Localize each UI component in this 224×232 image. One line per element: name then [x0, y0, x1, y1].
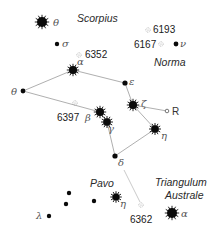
constellation-name: Triangulum	[155, 176, 207, 188]
star-label: ζ	[141, 98, 147, 109]
star-theta-sco: θ	[35, 15, 59, 29]
variable-star-label: R	[172, 106, 179, 117]
star-theta-ara: θ	[11, 86, 25, 97]
cluster-label: 6362	[130, 214, 153, 225]
star-icon	[67, 191, 71, 195]
star-label: θ	[11, 86, 17, 97]
star-icon	[92, 199, 96, 203]
constellation-name: Norma	[154, 56, 186, 68]
star-label: σ	[62, 38, 70, 49]
star-chart: 61936167635263976362 Rθσαεθβγζηδνηλα Sco…	[0, 0, 224, 232]
star-icon	[112, 153, 117, 158]
star-lambda-pav: λ	[35, 210, 51, 221]
star-icon	[47, 214, 51, 218]
cluster-label: 6167	[134, 39, 157, 50]
star-icon	[122, 80, 127, 85]
star-icon	[112, 193, 119, 200]
constellation-name: Pavo	[90, 177, 114, 189]
star-label: β	[84, 112, 91, 123]
star-label: η	[120, 198, 126, 209]
star-label: δ	[118, 157, 124, 168]
star-icon	[21, 89, 26, 94]
star-nu-nor: ν	[174, 38, 186, 49]
star-icon	[96, 108, 104, 116]
star-icon	[129, 101, 137, 109]
cluster-ngc6397: 6397	[57, 101, 80, 123]
constellation-line	[73, 70, 125, 83]
star-label: α	[181, 208, 188, 219]
star-label: ε	[129, 76, 134, 87]
star-label: ν	[180, 38, 186, 49]
star-pavo-1	[67, 191, 71, 195]
star-alpha-ara: α	[67, 56, 84, 76]
star-eta-pav: η	[110, 191, 126, 209]
constellation-line	[23, 70, 73, 91]
star-alpha-tra: α	[165, 206, 188, 220]
star-delta-ara: δ	[112, 153, 124, 168]
star-icon	[37, 17, 47, 27]
star-icon	[174, 42, 179, 47]
cluster-ngc6167: 6167	[134, 39, 163, 50]
pointer-line	[124, 170, 140, 202]
cluster-center-icon	[160, 43, 161, 44]
star-icon	[167, 208, 177, 218]
constellation-name: Australe	[164, 189, 204, 201]
star-label: λ	[35, 210, 42, 221]
star-icon	[151, 125, 159, 133]
star-label: γ	[108, 123, 114, 134]
cluster-label: 6193	[153, 24, 176, 35]
star-gamma-ara: γ	[101, 116, 114, 134]
cluster-ngc6362: 6362	[130, 203, 153, 225]
star-label: α	[77, 56, 84, 67]
star-label: η	[161, 130, 167, 141]
star-pavo-2	[64, 202, 68, 206]
star-sigma-sco: σ	[55, 38, 70, 49]
star-epsilon-ara: ε	[122, 76, 134, 87]
stars: Rθσαεθβγζηδνηλα	[11, 15, 188, 221]
star-icon	[69, 66, 77, 74]
cluster-center-icon	[140, 204, 141, 205]
cluster-label: 6352	[85, 49, 108, 60]
constellation-line	[23, 91, 100, 112]
cluster-ngc6193: 6193	[146, 24, 176, 35]
star-label: θ	[53, 17, 59, 28]
cluster-center-icon	[147, 29, 148, 30]
constellation-line	[115, 129, 155, 156]
cluster-center-icon	[74, 102, 75, 103]
cluster-label: 6397	[57, 112, 80, 123]
variable-star-icon	[165, 109, 169, 113]
variable-star-r-ara: R	[165, 106, 179, 117]
star-pavo-3	[92, 199, 96, 203]
star-icon	[64, 202, 68, 206]
constellation-name: Scorpius	[77, 12, 119, 24]
star-icon	[55, 42, 59, 46]
